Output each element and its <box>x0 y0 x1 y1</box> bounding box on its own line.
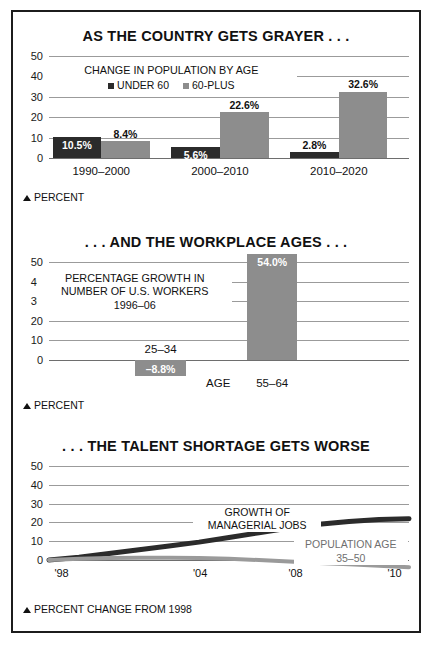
chart2-caption: PERCENTAGE GROWTH INNUMBER OF U.S. WORKE… <box>37 272 232 312</box>
chart3-label-managerial-line2: MANAGERIAL JOBS <box>196 519 318 532</box>
chart3-label-population-line1: POPULATION AGE <box>297 538 405 551</box>
chart1-caption: CHANGE IN POPULATION BY AGEUNDER 6060-PL… <box>45 64 297 93</box>
y-axis-tick: 0 <box>13 153 43 164</box>
y-axis-tick: 50 <box>13 257 43 268</box>
y-axis-tick: 20 <box>13 112 43 123</box>
bar-value-25-34: –8.8% <box>135 364 185 375</box>
legend-item-60-plus: 60-PLUS <box>183 79 235 92</box>
bar-value-under-60: 2.8% <box>290 140 339 151</box>
y-axis-tick: 50 <box>13 51 43 62</box>
chart1-legend: UNDER 6060-PLUS <box>49 79 293 92</box>
x-axis-tick: '08 <box>288 568 302 579</box>
chart3-plot-area: 50403020100GROWTH OFMANAGERIAL JOBSPOPUL… <box>13 460 419 588</box>
x-axis-tick: '04 <box>193 568 207 579</box>
triangle-icon <box>23 607 31 613</box>
chart3-label-population-line2: 35–50 <box>297 552 405 565</box>
y-axis-tick: 50 <box>13 461 43 472</box>
chart2-axis-label-age: AGE <box>193 378 243 390</box>
y-axis-tick: 20 <box>13 315 43 326</box>
chart-panel-population: AS THE COUNTRY GETS GRAYER . . . 5040302… <box>13 14 419 216</box>
y-axis-tick: 20 <box>13 517 43 528</box>
chart1-group-label: 2010–2020 <box>290 166 387 178</box>
chart2-caption-line-1: PERCENTAGE GROWTH IN <box>41 272 228 285</box>
chart2-footnote: PERCENT <box>23 400 84 411</box>
chart3-title: . . . THE TALENT SHORTAGE GETS WORSE <box>13 438 419 454</box>
legend-label: 60-PLUS <box>192 79 235 92</box>
triangle-icon <box>23 195 31 201</box>
chart1-plot-area: 5040302010010.5%8.4%1990–20005.6%22.6%20… <box>13 50 419 178</box>
chart2-footnote-text: PERCENT <box>34 399 84 411</box>
chart-panel-workplace: . . . AND THE WORKPLACE AGES . . . 50403… <box>13 224 419 420</box>
bar-value-60-plus: 32.6% <box>339 79 388 90</box>
y-axis-tick: 10 <box>13 335 43 346</box>
bar-60-plus <box>339 92 388 159</box>
bar-age-55-64 <box>247 254 297 360</box>
bar-value-60-plus: 22.6% <box>220 100 269 111</box>
chart2-title: . . . AND THE WORKPLACE AGES . . . <box>13 234 419 250</box>
x-axis-tick: '10 <box>387 568 401 579</box>
y-axis-tick: 0 <box>13 355 43 366</box>
legend-item-under-60: UNDER 60 <box>108 79 169 92</box>
chart3-label-managerial-line1: GROWTH OF <box>196 506 318 519</box>
bar-60-plus <box>220 112 269 158</box>
chart2-caption-line-2: NUMBER OF U.S. WORKERS <box>41 285 228 298</box>
legend-swatch-icon <box>183 83 189 89</box>
legend-label: UNDER 60 <box>117 79 169 92</box>
chart1-group-label: 1990–2000 <box>53 166 150 178</box>
chart1-group-label: 2000–2010 <box>171 166 268 178</box>
chart3-label-population: POPULATION AGE35–50 <box>294 538 408 564</box>
chart1-footnote-text: PERCENT <box>34 191 84 203</box>
bar-value-60-plus: 8.4% <box>101 129 150 140</box>
x-axis-tick: '98 <box>54 568 68 579</box>
chart1-footnote: PERCENT <box>23 192 84 203</box>
y-axis-tick: 30 <box>13 498 43 509</box>
chart2-caption-line-3: 1996–06 <box>41 299 228 312</box>
legend-swatch-icon <box>108 83 114 89</box>
bar-60-plus <box>101 141 150 158</box>
bar-value-55-64: 54.0% <box>247 257 297 268</box>
bar-under-60 <box>290 152 339 158</box>
chart1-caption-text: CHANGE IN POPULATION BY AGE <box>49 64 293 77</box>
bar-value-under-60: 5.6% <box>171 150 220 161</box>
y-axis-tick: 10 <box>13 132 43 143</box>
chart1-title: AS THE COUNTRY GETS GRAYER . . . <box>13 28 419 44</box>
chart3-footnote-text: PERCENT CHANGE FROM 1998 <box>34 603 192 615</box>
infographic-page: AS THE COUNTRY GETS GRAYER . . . 5040302… <box>11 10 421 633</box>
y-axis-tick: 40 <box>13 479 43 490</box>
chart2-label-25-34: 25–34 <box>110 344 211 356</box>
y-axis-tick: 30 <box>13 91 43 102</box>
bar-value-under-60: 10.5% <box>53 140 102 151</box>
chart3-footnote: PERCENT CHANGE FROM 1998 <box>23 604 192 615</box>
chart2-plot-area: 50403020100–8.8%25–3454.0%55–64AGEPERCEN… <box>13 256 419 396</box>
triangle-icon <box>23 403 31 409</box>
chart3-label-managerial: GROWTH OFMANAGERIAL JOBS <box>193 506 321 532</box>
y-axis-tick: 0 <box>13 555 43 566</box>
chart-panel-talent: . . . THE TALENT SHORTAGE GETS WORSE 504… <box>13 428 419 631</box>
chart3-lines: GROWTH OFMANAGERIAL JOBSPOPULATION AGE35… <box>49 460 409 588</box>
y-axis-tick: 40 <box>13 71 43 82</box>
y-axis-tick: 10 <box>13 536 43 547</box>
